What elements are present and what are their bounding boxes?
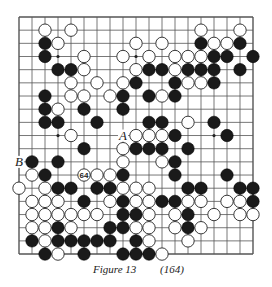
black-stone: [117, 248, 129, 260]
white-stone: [247, 208, 259, 220]
white-stone: [65, 90, 77, 102]
black-stone: [52, 222, 64, 234]
white-stone: [195, 195, 207, 207]
black-stone: [143, 248, 155, 260]
white-stone: [91, 169, 103, 181]
white-stone: [117, 156, 129, 168]
white-stone: [117, 50, 129, 62]
white-stone: [130, 195, 142, 207]
star-point: [212, 134, 215, 137]
white-stone: [156, 129, 168, 141]
black-stone: [104, 182, 116, 194]
white-stone: [221, 37, 233, 49]
black-stone: [156, 63, 168, 75]
figure-number: (164): [160, 263, 184, 275]
black-stone: [117, 222, 129, 234]
black-stone: [156, 116, 168, 128]
white-stone: [39, 24, 51, 36]
white-stone: [143, 182, 155, 194]
black-stone: [221, 169, 233, 181]
black-stone: [195, 182, 207, 194]
black-stone: [91, 116, 103, 128]
white-stone: [26, 222, 38, 234]
black-stone: [65, 182, 77, 194]
figure-title: Figure 13: [93, 263, 136, 275]
white-stone: [169, 63, 181, 75]
black-stone: [26, 156, 38, 168]
white-stone: [195, 77, 207, 89]
star-point: [56, 134, 59, 137]
white-stone: [65, 222, 77, 234]
point-label-b: B: [15, 154, 23, 169]
black-stone: [130, 235, 142, 247]
black-stone: [208, 77, 220, 89]
black-stone: [117, 103, 129, 115]
black-stone: [195, 37, 207, 49]
star-point: [134, 55, 137, 58]
white-stone: [143, 208, 155, 220]
white-stone: [169, 50, 181, 62]
white-stone: [78, 50, 90, 62]
black-stone: [221, 129, 233, 141]
black-stone: [52, 116, 64, 128]
white-stone: [104, 195, 116, 207]
black-stone: [130, 143, 142, 155]
white-stone: [52, 37, 64, 49]
white-stone: [156, 37, 168, 49]
white-stone: [117, 77, 129, 89]
white-stone: [26, 195, 38, 207]
black-stone: [143, 116, 155, 128]
black-stone: [78, 103, 90, 115]
white-stone: [26, 169, 38, 181]
white-stone: [65, 129, 77, 141]
black-stone: [39, 103, 51, 115]
black-stone: [39, 90, 51, 102]
white-stone: [117, 143, 129, 155]
black-stone: [156, 143, 168, 155]
white-stone: [169, 208, 181, 220]
white-stone: [182, 235, 194, 247]
white-stone: [91, 77, 103, 89]
white-stone: [156, 90, 168, 102]
black-stone: [130, 77, 142, 89]
white-stone: [78, 90, 90, 102]
black-stone: [169, 195, 181, 207]
white-stone: [52, 103, 64, 115]
white-stone: [26, 208, 38, 220]
white-stone: [130, 63, 142, 75]
black-stone: [52, 182, 64, 194]
black-stone: [182, 182, 194, 194]
black-stone: [182, 222, 194, 234]
white-stone: [195, 24, 207, 36]
white-stone: [65, 208, 77, 220]
white-stone: [182, 195, 194, 207]
white-stone: [52, 208, 64, 220]
black-stone: [39, 50, 51, 62]
move-number: 64: [80, 171, 89, 180]
black-stone: [78, 195, 90, 207]
white-stone: [208, 37, 220, 49]
black-stone: [78, 235, 90, 247]
white-stone: [117, 182, 129, 194]
white-stone: [195, 222, 207, 234]
white-stone: [65, 77, 77, 89]
white-stone: [143, 50, 155, 62]
black-stone: [247, 182, 259, 194]
black-stone: [169, 90, 181, 102]
black-stone: [91, 182, 103, 194]
black-stone: [234, 37, 246, 49]
black-stone: [117, 208, 129, 220]
white-stone: [78, 63, 90, 75]
white-stone: [52, 195, 64, 207]
black-stone: [182, 143, 194, 155]
black-stone: [26, 235, 38, 247]
black-stone: [234, 182, 246, 194]
black-stone: [182, 63, 194, 75]
white-stone: [91, 208, 103, 220]
black-stone: [65, 235, 77, 247]
white-stone: [104, 169, 116, 181]
black-stone: [208, 50, 220, 62]
white-stone: [39, 235, 51, 247]
black-stone: [169, 156, 181, 168]
white-stone: [156, 248, 168, 260]
